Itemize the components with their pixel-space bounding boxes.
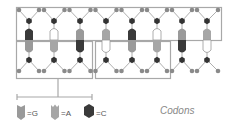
base-a-top: [102, 29, 110, 41]
base-a-bottom: [50, 40, 58, 53]
base-c-top: [25, 29, 33, 41]
base-t-top: [50, 29, 58, 41]
sugar-circle: [170, 8, 175, 13]
sugar-circle: [62, 69, 67, 74]
base-pair: [50, 29, 58, 53]
sugar-circle: [67, 69, 72, 74]
sugar-circle: [114, 69, 119, 74]
base-c-top: [128, 29, 136, 41]
base-a-bottom: [153, 40, 161, 53]
base-g-top: [178, 29, 186, 41]
sugar-circle: [42, 69, 47, 74]
sugar-circle: [119, 8, 124, 13]
c-base-icon: [84, 104, 94, 118]
base-g-top: [76, 29, 84, 41]
base-pair: [76, 29, 84, 53]
base-pair: [153, 29, 161, 53]
sugar-circle: [145, 8, 150, 13]
base-pair: [128, 29, 136, 53]
base-pair: [102, 29, 110, 53]
legend-label-g: =G: [27, 109, 38, 118]
sugar-circle: [216, 8, 221, 13]
dna-codon-diagram: =G =A =C Codons: [0, 0, 232, 126]
a-base-icon: [51, 105, 59, 121]
legend-label-a: =A: [61, 109, 72, 118]
base-pair: [178, 29, 186, 53]
codon-bracket: [17, 79, 92, 100]
sugar-circle: [42, 8, 47, 13]
sugar-circle: [93, 8, 98, 13]
legend-item-a: =A: [51, 105, 72, 121]
sugar-circle: [140, 8, 145, 13]
sugar-circle: [195, 8, 200, 13]
sugar-circle: [37, 8, 42, 13]
sugar-circle: [140, 69, 145, 74]
legend-item-c: =C: [84, 104, 107, 118]
sugar-circle: [190, 8, 195, 13]
sugar-circle: [165, 8, 170, 13]
sugar-circle: [17, 69, 22, 74]
sugar-circle: [165, 69, 170, 74]
sugar-circle: [17, 8, 22, 13]
sugar-circle: [216, 69, 221, 74]
base-pair: [203, 29, 211, 53]
base-t-bottom: [102, 40, 110, 53]
sugar-circle: [67, 8, 72, 13]
sugar-circle: [114, 8, 119, 13]
sugar-circle: [88, 8, 93, 13]
sugar-circle: [145, 69, 150, 74]
legend-label-c: =C: [96, 109, 107, 118]
base-c-bottom: [76, 40, 84, 53]
codons-title: Codons: [160, 105, 194, 116]
sugar-circle: [37, 69, 42, 74]
legend: =G =A =C: [17, 104, 107, 120]
top-strand-frame: [17, 8, 222, 41]
legend-item-g: =G: [17, 105, 38, 120]
base-pair: [25, 29, 33, 53]
base-c-bottom: [178, 40, 186, 53]
sugar-circle: [195, 69, 200, 74]
base-a-top: [203, 29, 211, 41]
sugar-circle: [190, 69, 195, 74]
base-g-bottom: [128, 40, 136, 53]
g-base-icon: [17, 105, 25, 120]
sugar-circle: [62, 8, 67, 13]
sugar-circle: [170, 69, 175, 74]
sugar-circle: [119, 69, 124, 74]
base-g-bottom: [25, 40, 33, 53]
base-t-bottom: [203, 40, 211, 53]
sugar-circle: [88, 69, 93, 74]
base-t-top: [153, 29, 161, 41]
sugar-circle: [93, 69, 98, 74]
